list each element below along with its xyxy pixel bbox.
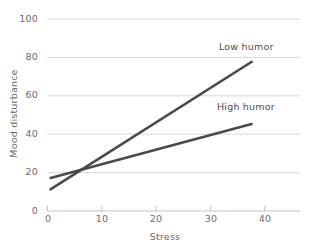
x-axis-title: Stress xyxy=(0,231,330,242)
x-tick-label-10: 10 xyxy=(87,213,117,224)
series-line-high-humor xyxy=(50,124,253,179)
x-tick-label-40: 40 xyxy=(250,213,280,224)
x-tick-label-30: 30 xyxy=(196,213,226,224)
x-axis-ticks xyxy=(48,206,265,212)
y-tick-label-100: 100 xyxy=(4,13,38,24)
series-label-high-humor: High humor xyxy=(217,101,275,112)
plot-area xyxy=(0,0,330,248)
x-tick-label-20: 20 xyxy=(141,213,171,224)
y-axis-title: Mood disturbance xyxy=(8,49,19,179)
x-tick-label-0: 0 xyxy=(33,213,63,224)
series-label-low-humor: Low humor xyxy=(219,41,274,52)
line-chart-figure: 100 80 60 40 20 0 0 10 20 30 40 Stress M… xyxy=(0,0,330,248)
